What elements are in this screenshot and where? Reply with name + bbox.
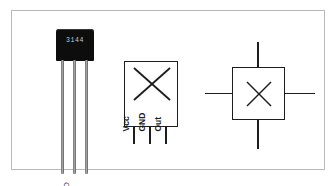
symbol-terminal-top — [257, 42, 259, 68]
pinout-lead-1 — [133, 126, 135, 144]
symbol-terminal-left — [205, 93, 233, 95]
pinout-pin-label-out: Out — [154, 117, 163, 132]
cross-icon — [133, 67, 171, 101]
pinout-pin-label-gnd: GND — [138, 113, 147, 132]
pinout-diagram: Vcc GND Out — [124, 61, 194, 151]
package-lead-3 — [85, 60, 88, 174]
pinout-box-outline — [124, 61, 178, 127]
pinout-pin-label-vcc: Vcc — [122, 116, 131, 131]
pinout-lead-2 — [149, 126, 151, 144]
pinout-lead-3 — [165, 126, 167, 144]
symbol-terminal-bottom — [257, 119, 259, 149]
package-part-number: 3144 — [56, 38, 94, 45]
figure-canvas: 3144 Vcc GND Out Vcc GND Out — [0, 0, 336, 186]
symbol-terminal-right — [284, 93, 315, 95]
package-lead-1 — [61, 60, 64, 174]
cross-icon — [246, 81, 272, 107]
figure-frame: 3144 Vcc GND Out Vcc GND Out — [11, 10, 325, 170]
package-illustration: 3144 Vcc GND Out — [52, 29, 112, 179]
schematic-symbol — [204, 41, 319, 153]
package-lead-2 — [73, 60, 76, 174]
package-body: 3144 — [56, 29, 94, 61]
package-pin-label-gnd: GND — [63, 182, 71, 186]
